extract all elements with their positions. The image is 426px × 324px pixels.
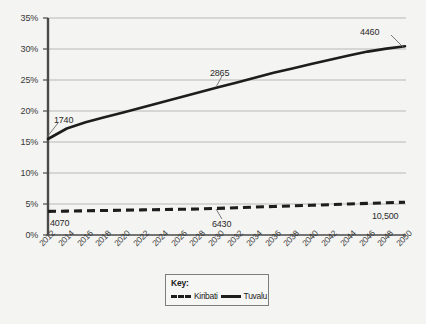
legend-entries: Kiribati Tuvalu <box>171 291 263 301</box>
legend-item-kiribati: Kiribati <box>171 291 218 301</box>
annotation-tuvalu-2865: 2865 <box>210 68 229 78</box>
legend-item-tuvalu: Tuvalu <box>221 291 267 301</box>
gridlines <box>48 18 406 204</box>
annotation-kiribati-6430: 6430 <box>212 219 231 229</box>
solid-line-swatch-icon <box>221 295 241 298</box>
annotation-kiribati-10500: 10,500 <box>372 211 398 221</box>
annotation-tuvalu-4460: 4460 <box>360 27 379 37</box>
annotation-leader-lines <box>47 35 403 219</box>
legend-label-tuvalu: Tuvalu <box>244 291 267 301</box>
annotation-kiribati-4070: 4070 <box>50 218 69 228</box>
annotation-tuvalu-1740: 1740 <box>54 115 73 125</box>
legend-title: Key: <box>171 278 263 288</box>
chart-legend: Key: Kiribati Tuvalu <box>165 274 269 306</box>
dashed-line-swatch-icon <box>171 295 191 298</box>
series-line-tuvalu <box>48 46 405 139</box>
legend-label-kiribati: Kiribati <box>194 291 218 301</box>
line-chart: 35% 30% 25% 20% 15% 10% 5% 0% <box>0 0 426 324</box>
